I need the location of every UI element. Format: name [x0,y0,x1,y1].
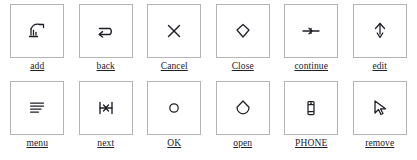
cursor-arrow-icon [367,95,393,121]
icon-cell-back[interactable]: back [72,4,141,81]
add-sketch-icon [24,18,50,44]
icon-cell-open[interactable]: open [209,81,278,158]
icon-caption: Cancel [161,61,188,72]
hamburger-lines-icon [24,95,50,121]
icon-box[interactable] [10,4,64,58]
icon-cell-edit[interactable]: edit [346,4,415,81]
icon-box[interactable] [147,4,201,58]
icon-cell-add[interactable]: add [3,4,72,81]
icon-cell-menu[interactable]: menu [3,81,72,158]
icon-caption: continue [294,61,328,72]
icon-cell-close[interactable]: Close [209,4,278,81]
icon-box[interactable] [216,81,270,135]
diamond-outline-icon [230,18,256,44]
icon-caption: remove [365,138,394,149]
icon-cell-continue[interactable]: continue [277,4,346,81]
icon-caption: open [233,138,252,149]
icon-caption: OK [167,138,181,149]
icon-caption: back [97,61,115,72]
icon-cell-phone[interactable]: PHONE [277,81,346,158]
x-cross-icon [161,18,187,44]
icon-box[interactable] [147,81,201,135]
icon-box[interactable] [79,81,133,135]
diamond-drop-icon [230,95,256,121]
icon-grid: addbackCancelClosecontinueeditmenunextOK… [0,0,417,160]
icon-box[interactable] [10,81,64,135]
icon-caption: next [97,138,114,149]
icon-cell-ok[interactable]: OK [140,81,209,158]
icon-caption: add [30,61,44,72]
icon-box[interactable] [353,4,407,58]
icon-cell-remove[interactable]: remove [346,81,415,158]
icon-box[interactable] [284,4,338,58]
icon-cell-next[interactable]: next [72,81,141,158]
icon-box[interactable] [79,4,133,58]
icon-caption: Close [232,61,254,72]
icon-box[interactable] [216,4,270,58]
arrow-right-line-icon [298,18,324,44]
u-turn-arrow-icon [93,18,119,44]
skip-next-bars-icon [93,95,119,121]
icon-box[interactable] [353,81,407,135]
mobile-phone-icon [298,95,324,121]
circle-outline-icon [161,95,187,121]
icon-caption: menu [26,138,48,149]
icon-caption: PHONE [295,138,328,149]
icon-caption: edit [372,61,387,72]
icon-cell-cancel[interactable]: Cancel [140,4,209,81]
pen-nib-icon [367,18,393,44]
icon-box[interactable] [284,81,338,135]
